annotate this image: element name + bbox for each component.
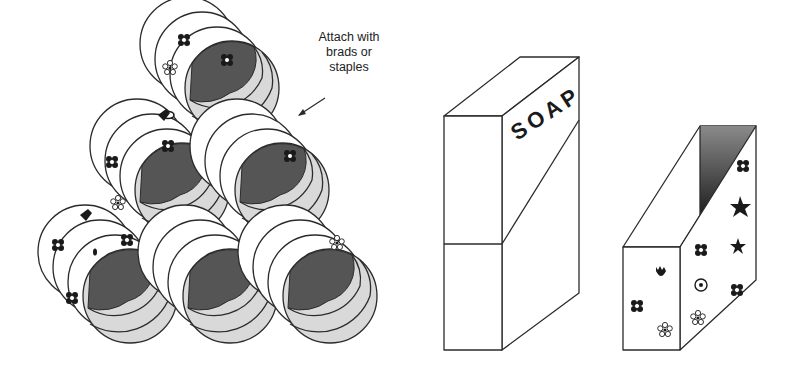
attach-annotation: Attach with brads or staples [306, 30, 392, 75]
annotation-line-2: brads or [306, 45, 392, 60]
magazine-box [623, 126, 756, 350]
annotation-line-3: staples [306, 60, 392, 75]
craft-illustration: SOAP [0, 0, 786, 374]
attach-arrow [298, 98, 325, 116]
annotation-line-1: Attach with [306, 30, 392, 45]
